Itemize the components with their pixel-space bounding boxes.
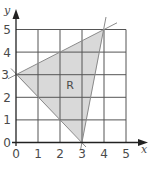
x-tick-3: 3: [78, 147, 86, 161]
y-tick-3: 3: [1, 68, 9, 82]
region-label: R: [66, 79, 74, 92]
x-tick-2: 2: [56, 147, 64, 161]
x-tick-4: 4: [100, 147, 108, 161]
x-tick-1: 1: [34, 147, 42, 161]
y-tick-0: 0: [3, 136, 11, 150]
x-tick-0: 0: [12, 147, 20, 161]
y-tick-5: 5: [3, 23, 11, 37]
x-tick-5: 5: [122, 147, 130, 161]
x-axis-label: x: [141, 143, 148, 156]
y-axis-label: y: [3, 4, 11, 17]
y-tick-2: 2: [3, 91, 11, 105]
y-tick-1: 1: [3, 113, 11, 127]
y-axis-arrow-icon: [13, 9, 20, 19]
coordinate-plane: y x 0 1 2 3 4 5 0 1 2 3 4 5 R: [0, 0, 149, 171]
y-tick-4: 4: [3, 46, 11, 60]
